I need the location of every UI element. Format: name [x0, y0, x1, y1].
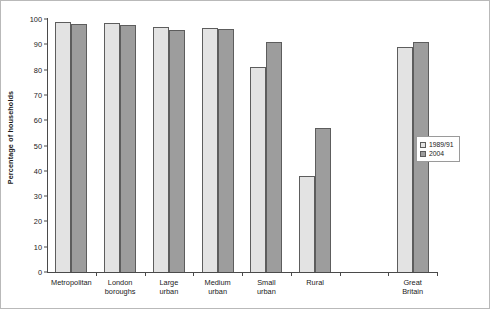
- x-axis-tick-mark: [242, 272, 243, 276]
- legend-swatch-icon: [420, 142, 426, 148]
- y-axis-title-text: Percentage of households: [7, 90, 16, 183]
- bar[interactable]: [299, 176, 315, 272]
- bar[interactable]: [120, 25, 136, 272]
- legend-swatch-icon: [420, 151, 426, 157]
- bar[interactable]: [71, 24, 87, 272]
- legend-item[interactable]: 2004: [420, 149, 454, 158]
- bar-group-bars: [96, 19, 145, 272]
- bar-group-bars: [291, 19, 340, 272]
- bar-group-bars: [193, 19, 242, 272]
- bar[interactable]: [104, 23, 120, 272]
- x-axis-tick-mark: [291, 272, 292, 276]
- x-axis-tick-mark: [437, 272, 438, 276]
- bar[interactable]: [397, 47, 413, 272]
- x-axis-tick-mark: [388, 272, 389, 276]
- bar[interactable]: [315, 128, 331, 272]
- bar-group-bars: [340, 19, 389, 272]
- bar-group-bars: [145, 19, 194, 272]
- bar[interactable]: [55, 22, 71, 272]
- bar[interactable]: [250, 67, 266, 272]
- x-axis-tick-label: Great Britain: [375, 278, 451, 297]
- bar-groups: [47, 19, 437, 272]
- bar-group: [96, 19, 145, 272]
- bar[interactable]: [202, 28, 218, 272]
- bar-group-bars: [47, 19, 96, 272]
- bar[interactable]: [218, 29, 234, 272]
- bar-group: [340, 19, 389, 272]
- plot-area: 0102030405060708090100: [47, 19, 437, 272]
- x-axis-tick-mark: [193, 272, 194, 276]
- chart-figure: Percentage of households 010203040506070…: [0, 0, 490, 309]
- x-axis-tick-label: Rural: [277, 278, 353, 287]
- bar[interactable]: [153, 27, 169, 272]
- legend-item-label: 1989/91: [429, 141, 454, 148]
- x-axis-tick-mark: [340, 272, 341, 276]
- bar-group: [291, 19, 340, 272]
- legend-item[interactable]: 1989/91: [420, 140, 454, 149]
- y-axis-title: Percentage of households: [3, 1, 19, 273]
- x-axis-tick-mark: [145, 272, 146, 276]
- bar-group: [242, 19, 291, 272]
- legend-item-label: 2004: [429, 150, 444, 157]
- bar-group: [47, 19, 96, 272]
- bar[interactable]: [169, 30, 185, 272]
- bar-group: [145, 19, 194, 272]
- bar-group-bars: [242, 19, 291, 272]
- bar[interactable]: [266, 42, 282, 272]
- legend: 1989/91 2004: [416, 136, 460, 162]
- bar-group: [193, 19, 242, 272]
- x-axis-tick-mark: [96, 272, 97, 276]
